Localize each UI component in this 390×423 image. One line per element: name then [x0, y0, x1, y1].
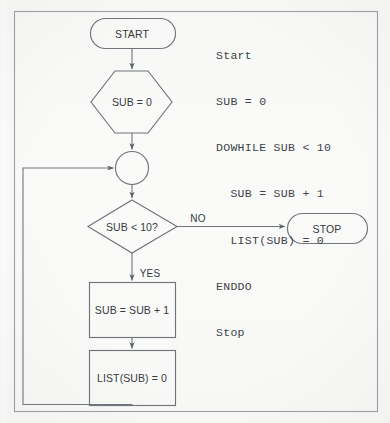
code-line: ENDDO [216, 279, 331, 294]
flowchart-figure: START SUB = 0 SUB < 10? SUB = SUB + 1 LI… [0, 0, 390, 423]
branch-label-yes: YES [140, 267, 161, 278]
edge-loopback-to-connector [23, 168, 132, 406]
code-line: LIST(SUB) = 0 [216, 233, 331, 248]
code-line: Stop [216, 325, 331, 340]
pseudocode-listing: Start SUB = 0 DOWHILE SUB < 10 SUB = SUB… [216, 17, 331, 371]
node-init-label: SUB = 0 [112, 96, 152, 108]
branch-label-no: NO [190, 213, 205, 224]
flowchart-diagram [0, 0, 390, 423]
node-connector [116, 152, 149, 185]
code-line: DOWHILE SUB < 10 [216, 140, 331, 155]
node-decision-label: SUB < 10? [106, 221, 158, 233]
node-start-label: START [115, 28, 149, 40]
node-increment-label: SUB = SUB + 1 [95, 304, 169, 316]
code-line: Start [216, 48, 331, 63]
node-assign-label: LIST(SUB) = 0 [97, 372, 167, 384]
code-line: SUB = SUB + 1 [216, 186, 331, 201]
code-line: SUB = 0 [216, 94, 331, 109]
